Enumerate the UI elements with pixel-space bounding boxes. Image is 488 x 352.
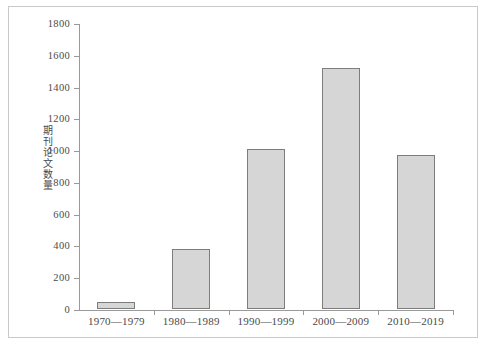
plot-area: 020040060080010001200140016001800 [79, 24, 453, 310]
y-axis-title: 期刊论文数量 [37, 125, 53, 191]
y-tick-label: 800 [53, 178, 70, 189]
x-axis-label: 1990—1999 [238, 316, 295, 327]
x-tick-mark [378, 310, 379, 315]
y-tick-mark [74, 278, 79, 279]
y-tick-label: 1600 [48, 51, 70, 62]
y-tick-mark [74, 215, 79, 216]
x-axis-labels: 1970—19791980—19891990—19992000—20092010… [79, 316, 453, 340]
x-axis-label: 2010—2019 [387, 316, 444, 327]
x-axis-line [79, 310, 453, 311]
x-tick-mark [154, 310, 155, 315]
x-axis-label: 2000—2009 [312, 316, 369, 327]
y-tick-label: 1200 [48, 114, 70, 125]
bar [397, 155, 435, 309]
y-tick-label: 1800 [48, 19, 70, 30]
bar [247, 149, 285, 309]
y-tick-mark [74, 24, 79, 25]
y-tick-label: 200 [53, 273, 70, 284]
y-tick-mark [74, 119, 79, 120]
y-tick-mark [74, 183, 79, 184]
y-tick-label: 0 [64, 305, 70, 316]
x-tick-mark [453, 310, 454, 315]
x-axis-label: 1970—1979 [88, 316, 145, 327]
x-axis-label: 1980—1989 [163, 316, 220, 327]
y-tick-mark [74, 246, 79, 247]
y-tick-mark [74, 310, 79, 311]
y-tick-label: 1000 [48, 146, 70, 157]
y-tick-label: 600 [53, 209, 70, 220]
bar [322, 68, 360, 309]
y-axis-line [79, 24, 80, 311]
y-tick-mark [74, 56, 79, 57]
x-tick-mark [229, 310, 230, 315]
y-tick-label: 1400 [48, 82, 70, 93]
bar [97, 302, 135, 309]
y-tick-label: 400 [53, 241, 70, 252]
x-tick-mark [303, 310, 304, 315]
y-tick-mark [74, 151, 79, 152]
y-tick-mark [74, 88, 79, 89]
bar [172, 249, 210, 309]
chart-figure: 期刊论文数量 020040060080010001200140016001800… [8, 6, 478, 338]
